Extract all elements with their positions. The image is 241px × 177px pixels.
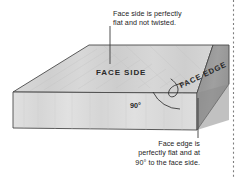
callout-face-edge-text: Face edge is perfectly flat and at 90° t…: [116, 139, 200, 167]
board-front-face: [13, 92, 197, 130]
label-right-angle: 90°: [130, 101, 141, 110]
label-face-side: FACE SIDE: [96, 68, 146, 77]
woodworking-board-diagram: Face side is perfectly flat and not twis…: [0, 0, 241, 177]
callout-face-side-text: Face side is perfectly flat and not twis…: [113, 9, 209, 28]
